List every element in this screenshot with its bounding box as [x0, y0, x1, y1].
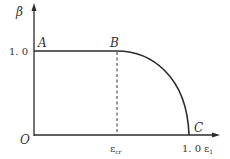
x-marker-label: εcr	[110, 143, 122, 155]
point-c-label: C	[194, 121, 203, 135]
y-tick-label: 1. 0	[9, 46, 28, 57]
y-axis-arrow-icon	[32, 3, 37, 11]
x-tick-label: 1. 0	[182, 143, 201, 154]
point-b-label: B	[109, 36, 119, 50]
beta-epsilon-diagram: β 1. 0 A B C O εcr 1. 0 ε1	[0, 0, 230, 159]
point-a-label: A	[37, 36, 47, 50]
origin-label: O	[20, 133, 30, 147]
x-axis-arrow-icon	[212, 133, 220, 138]
y-axis-label: β	[15, 5, 23, 19]
x-axis-label: ε1	[204, 143, 213, 155]
curve-b-c	[117, 51, 189, 135]
